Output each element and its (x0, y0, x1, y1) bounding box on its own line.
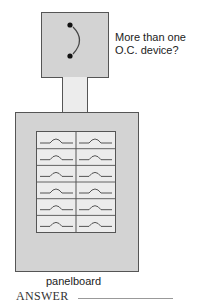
breaker-icons (37, 132, 115, 232)
switch-contact-icon (42, 13, 108, 77)
question-label-line2: O.C. device? (115, 44, 186, 57)
conduit (62, 77, 88, 113)
answer-line[interactable] (78, 298, 173, 299)
question-label: More than one O.C. device? (115, 31, 186, 57)
panelboard-label: panelboard (46, 275, 101, 287)
answer-label: ANSWER (16, 289, 68, 304)
question-label-line1: More than one (115, 31, 186, 44)
breaker-grid (36, 131, 116, 233)
device-box (41, 12, 109, 78)
